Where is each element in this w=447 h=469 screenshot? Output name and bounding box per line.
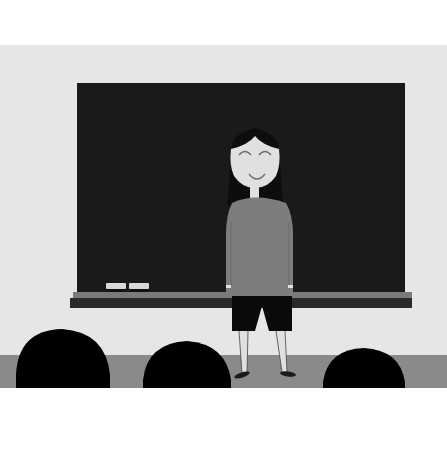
right-hand	[288, 285, 293, 288]
top-background	[0, 0, 447, 45]
shirt	[226, 198, 293, 297]
classroom-scene	[0, 0, 447, 469]
left-hand	[226, 285, 231, 288]
bottom-background	[0, 388, 447, 469]
